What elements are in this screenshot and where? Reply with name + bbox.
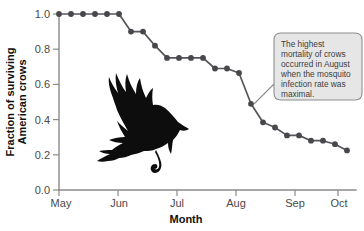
y-tick-label-3: 0.6	[35, 78, 50, 90]
x-tick-label-aug: Aug	[226, 197, 246, 209]
y-tick-label-5: 1.0	[35, 8, 50, 20]
data-point	[140, 29, 146, 35]
data-point	[104, 11, 110, 17]
data-point	[164, 55, 170, 61]
x-tick-label-jul: Jul	[170, 197, 184, 209]
y-tick-label-0: 0.0	[35, 184, 50, 196]
data-point	[116, 11, 122, 17]
y-tick-label-2: 0.4	[35, 114, 50, 126]
callout-line-6: maximal.	[281, 89, 314, 99]
callout-line-1: The highest	[281, 39, 325, 49]
x-tick-label-oct: Oct	[330, 197, 347, 209]
callout-line-5: infection rate was	[281, 79, 346, 89]
data-point	[344, 148, 350, 154]
callout-line-4: when the mosquito	[280, 69, 351, 79]
data-point	[332, 141, 338, 147]
y-axis-title: Fraction of surviving American crows	[4, 48, 28, 157]
data-point	[224, 66, 230, 72]
data-point	[248, 101, 254, 107]
data-point	[92, 11, 98, 17]
data-point	[80, 11, 86, 17]
data-point	[200, 55, 206, 61]
x-tick-label-jun: Jun	[110, 197, 128, 209]
crow-survival-chart: 0.0 0.2 0.4 0.6 0.8 1.0 May Jun Jul Aug …	[0, 0, 364, 231]
x-tick-label-sep: Sep	[285, 197, 305, 209]
callout-line-3: occurred in August	[281, 59, 350, 69]
data-point	[152, 43, 158, 49]
data-point	[320, 138, 326, 144]
data-point	[296, 133, 302, 139]
y-axis-title-line-1: Fraction of surviving	[4, 48, 16, 157]
data-point	[284, 133, 290, 139]
data-point	[272, 125, 278, 131]
data-point	[188, 55, 194, 61]
y-tick-label-1: 0.2	[35, 149, 50, 161]
data-point	[308, 138, 314, 144]
x-axis-title: Month	[170, 213, 203, 225]
data-point	[128, 29, 134, 35]
y-tick-label-4: 0.8	[35, 43, 50, 55]
data-point	[68, 11, 74, 17]
data-point	[260, 119, 266, 125]
callout-line-2: mortality of crows	[281, 49, 346, 59]
data-point	[56, 11, 62, 17]
x-tick-label-may: May	[51, 197, 72, 209]
y-axis-title-line-2: American crows	[16, 60, 28, 145]
data-point	[236, 70, 242, 76]
data-point	[176, 55, 182, 61]
data-point	[212, 66, 218, 72]
